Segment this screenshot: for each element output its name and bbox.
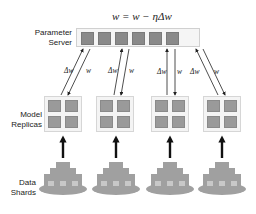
label-line: Shards (0, 188, 36, 198)
replica-block (48, 116, 61, 128)
replica-block (65, 116, 78, 128)
replica-block (117, 116, 130, 128)
model-replica (44, 96, 82, 132)
replica-block (207, 100, 220, 112)
w-label: w (177, 67, 182, 76)
label-line: Model (0, 110, 42, 120)
w-label: w (129, 66, 134, 75)
data-shards-label: Data Shards (0, 178, 36, 198)
delta-w-label: Δw (157, 67, 166, 76)
label-line: Data (0, 178, 36, 188)
w-label: w (214, 67, 219, 76)
replica-block (100, 116, 113, 128)
label-line: Replicas (0, 120, 42, 130)
delta-w-label: Δw (108, 66, 117, 75)
replica-block (65, 100, 78, 112)
replica-block (172, 116, 185, 128)
model-replicas-label: Model Replicas (0, 110, 42, 130)
replica-block (224, 116, 237, 128)
replica-block (117, 100, 130, 112)
replica-block (207, 116, 220, 128)
replica-block (224, 100, 237, 112)
replica-block (172, 100, 185, 112)
delta-w-label: Δw (64, 66, 73, 75)
replica-block (100, 100, 113, 112)
w-label: w (86, 66, 91, 75)
model-replica (96, 96, 134, 132)
replica-block (48, 100, 61, 112)
replica-block (155, 100, 168, 112)
model-replica (151, 96, 189, 132)
model-replica (203, 96, 241, 132)
delta-w-label: Δw (190, 67, 199, 76)
replica-block (155, 116, 168, 128)
